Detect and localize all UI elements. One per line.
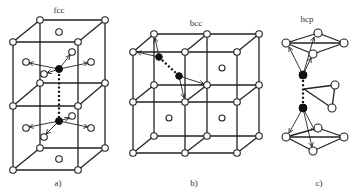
hcp-host-atoms [282,29,348,155]
bcc-solute-pair-link [162,60,176,73]
bcc-panel: bcc [130,18,263,188]
hcp-solute-atom-lower [299,104,307,112]
fcc-solute-atom-lower [56,118,63,125]
hcp-panel: hcp [282,14,348,188]
fcc-panel: fcc [10,5,109,188]
hcp-solute-atom-upper [299,71,307,79]
fcc-label: fcc [54,5,65,15]
bcc-solute-atom-1 [156,54,163,61]
panel-a-caption: a) [55,178,62,188]
bcc-label: bcc [190,18,203,28]
bcc-solute-atom-2 [176,73,183,80]
panel-c-caption: c) [316,178,323,188]
crystal-structures-diagram: fcc [0,0,354,194]
panel-b-caption: b) [190,178,198,188]
fcc-solute-atom-upper [56,66,63,73]
bcc-arrows [137,38,204,98]
hcp-label: hcp [301,14,314,24]
